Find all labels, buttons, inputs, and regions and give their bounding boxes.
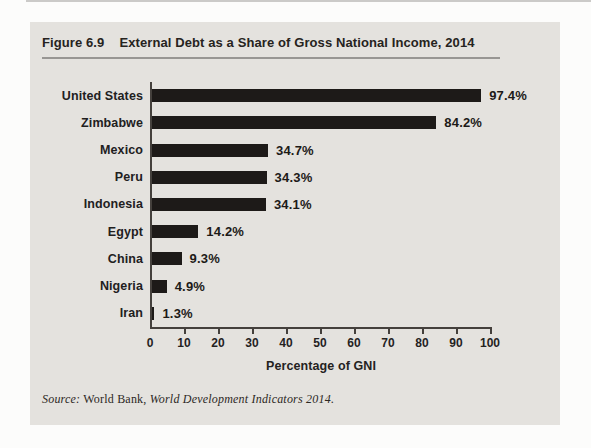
figure-title-text: External Debt as a Share of Gross Nation… — [119, 35, 474, 50]
bar — [150, 252, 182, 265]
category-label: Indonesia — [30, 197, 143, 211]
chart-row: Zimbabwe84.2% — [30, 109, 560, 136]
chart-row: Iran1.3% — [30, 300, 560, 327]
value-label: 14.2% — [206, 224, 244, 239]
y-axis-line — [150, 82, 152, 329]
category-label: China — [30, 252, 143, 266]
category-label: Nigeria — [30, 279, 143, 293]
x-axis-tick-label: 50 — [303, 336, 337, 350]
value-label: 34.3% — [275, 170, 313, 185]
x-axis-tick-label: 90 — [439, 336, 473, 350]
source-prefix: Source: — [42, 392, 80, 406]
x-axis-tick-mark — [388, 329, 390, 334]
bar-track: 14.2% — [150, 224, 560, 239]
category-label: Egypt — [30, 225, 143, 239]
x-axis-tick-mark — [490, 329, 492, 334]
source-roman-text: World Bank, — [80, 392, 149, 406]
chart-row: China9.3% — [30, 245, 560, 272]
value-label: 1.3% — [162, 306, 192, 321]
x-axis-tick-label: 30 — [235, 336, 269, 350]
figure-title: Figure 6.9External Debt as a Share of Gr… — [42, 35, 475, 50]
value-label: 34.7% — [276, 143, 314, 158]
x-axis-title: Percentage of GNI — [150, 359, 492, 373]
chart-row: United States97.4% — [30, 82, 560, 109]
chart-row: Egypt14.2% — [30, 218, 560, 245]
x-axis-tick-mark — [184, 329, 186, 334]
figure-panel: Figure 6.9External Debt as a Share of Gr… — [30, 22, 560, 425]
chart-row: Nigeria4.9% — [30, 273, 560, 300]
x-axis-tick-label: 60 — [337, 336, 371, 350]
x-axis-tick-label: 40 — [269, 336, 303, 350]
value-label: 97.4% — [489, 88, 527, 103]
bar — [150, 89, 481, 102]
figure-number-label: Figure 6.9 — [42, 35, 104, 50]
bar — [150, 144, 268, 157]
bar-track: 4.9% — [150, 279, 560, 294]
x-axis-tick-mark — [422, 329, 424, 334]
x-axis-tick-label: 80 — [405, 336, 439, 350]
bar-track: 9.3% — [150, 251, 560, 266]
x-axis-tick-mark — [286, 329, 288, 334]
source-note: Source: World Bank, World Development In… — [42, 392, 334, 407]
x-axis-tick-mark — [354, 329, 356, 334]
bar — [150, 198, 266, 211]
bar-track: 84.2% — [150, 115, 560, 130]
x-axis-tick-mark — [218, 329, 220, 334]
chart-row: Indonesia34.1% — [30, 191, 560, 218]
bar-track: 97.4% — [150, 88, 560, 103]
source-italic-text: World Development Indicators 2014 — [150, 392, 331, 406]
x-axis-tick-label: 10 — [167, 336, 201, 350]
category-label: Iran — [30, 306, 143, 320]
bar — [150, 225, 198, 238]
chart-row: Mexico34.7% — [30, 136, 560, 163]
bar-track: 34.1% — [150, 197, 560, 212]
bar — [150, 171, 267, 184]
x-axis-tick-mark — [252, 329, 254, 334]
value-label: 84.2% — [444, 115, 482, 130]
bar-chart-rows: United States97.4%Zimbabwe84.2%Mexico34.… — [30, 82, 560, 327]
x-axis-tick-mark — [320, 329, 322, 334]
bar — [150, 280, 167, 293]
page-top-rule — [26, 0, 591, 2]
x-axis-tick-label: 0 — [133, 336, 167, 350]
x-axis-tick-label: 70 — [371, 336, 405, 350]
title-underline-rule — [42, 57, 500, 59]
bar-track: 34.3% — [150, 170, 560, 185]
source-suffix: . — [331, 392, 334, 406]
category-label: Zimbabwe — [30, 116, 143, 130]
category-label: United States — [30, 89, 143, 103]
x-axis-tick-label: 100 — [473, 336, 507, 350]
bar-track: 34.7% — [150, 143, 560, 158]
bar — [150, 116, 436, 129]
bar-track: 1.3% — [150, 306, 560, 321]
value-label: 34.1% — [274, 197, 312, 212]
category-label: Peru — [30, 170, 143, 184]
value-label: 9.3% — [190, 251, 220, 266]
category-label: Mexico — [30, 143, 143, 157]
chart-row: Peru34.3% — [30, 164, 560, 191]
x-axis-tick-label: 20 — [201, 336, 235, 350]
value-label: 4.9% — [175, 279, 205, 294]
x-axis-tick-mark — [456, 329, 458, 334]
